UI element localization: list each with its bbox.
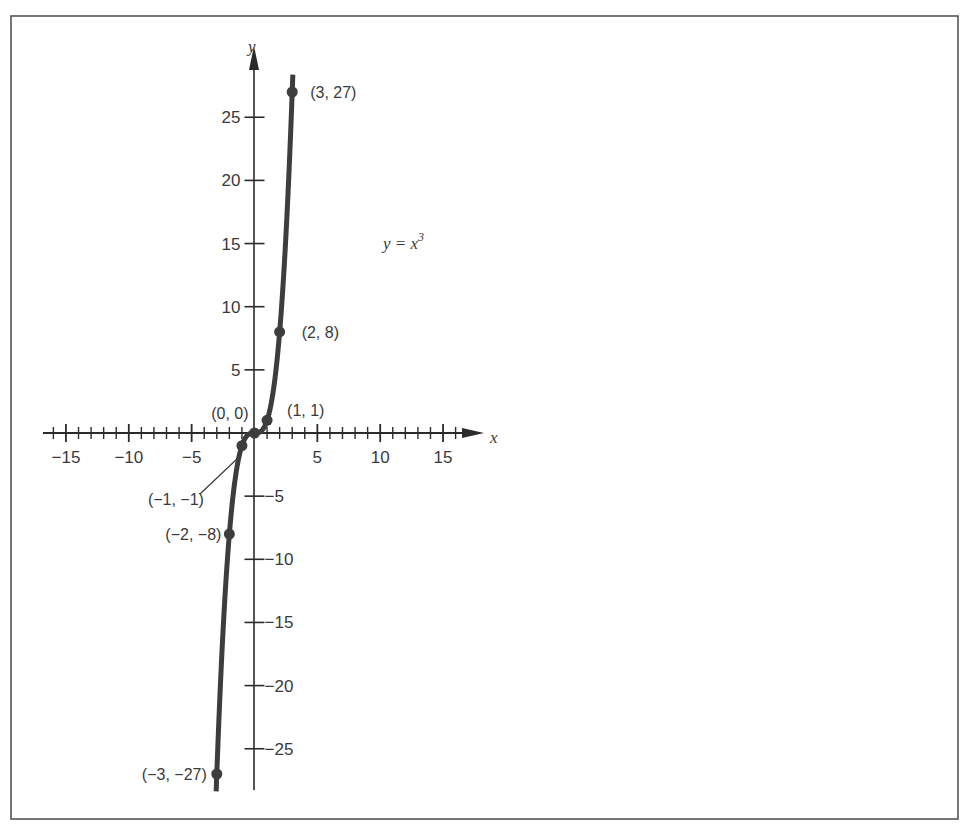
chart-border xyxy=(11,16,958,819)
y-tick-label: −20 xyxy=(265,677,294,696)
x-tick-label: 10 xyxy=(371,448,390,467)
y-tick-label: −5 xyxy=(265,487,284,506)
data-point-marker xyxy=(236,440,247,451)
x-tick-label: −15 xyxy=(52,448,81,467)
y-tick-label: 15 xyxy=(222,235,241,254)
data-point-label: (2, 8) xyxy=(302,324,339,341)
y-tick-label: −15 xyxy=(265,613,294,632)
figure-frame: x y −15−10−551015 252015105−5−10−15−20−2… xyxy=(0,0,967,833)
y-tick-label: 25 xyxy=(222,108,241,127)
x-axis-arrow-icon xyxy=(462,428,484,438)
data-point-label: (−3, −27) xyxy=(142,766,207,783)
x-tick-label: 5 xyxy=(313,448,322,467)
data-point-marker xyxy=(262,415,273,426)
data-point-label: (−1, −1) xyxy=(148,491,204,508)
y-axis-label: y xyxy=(246,37,256,56)
data-point-marker xyxy=(224,529,235,540)
x-axis-label: x xyxy=(489,428,498,447)
data-point-label: (1, 1) xyxy=(287,402,324,419)
y-tick-label: 5 xyxy=(231,361,240,380)
data-point-label: (3, 27) xyxy=(310,84,356,101)
data-point-label: (−2, −8) xyxy=(165,526,221,543)
x-tick-label: 15 xyxy=(434,448,453,467)
data-point-marker xyxy=(287,86,298,97)
y-tick-label: 20 xyxy=(222,171,241,190)
cubic-function-chart: x y −15−10−551015 252015105−5−10−15−20−2… xyxy=(0,0,967,833)
equation-label: y = x3 xyxy=(381,230,424,253)
data-point-marker xyxy=(274,326,285,337)
y-tick-label: 10 xyxy=(222,298,241,317)
y-tick-label: −10 xyxy=(265,550,294,569)
data-point-label: (0, 0) xyxy=(211,405,248,422)
data-point-marker xyxy=(211,769,222,780)
x-tick-label: −10 xyxy=(114,448,143,467)
x-tick-label: −5 xyxy=(182,448,201,467)
y-tick-label: −25 xyxy=(265,740,294,759)
data-point-marker xyxy=(249,428,260,439)
